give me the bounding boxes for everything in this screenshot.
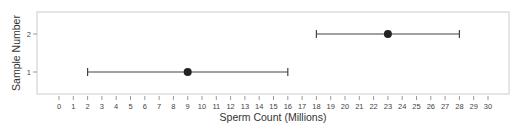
y-tick-label: 2: [27, 30, 31, 39]
y-tick-label: 1: [27, 68, 31, 77]
x-tick-label: 10: [198, 102, 206, 111]
x-tick-label: 21: [355, 102, 363, 111]
x-tick-label: 16: [284, 102, 292, 111]
x-tick-label: 23: [384, 102, 392, 111]
x-tick-label: 13: [241, 102, 249, 111]
mean-marker: [184, 68, 192, 76]
x-tick-label: 22: [369, 102, 377, 111]
x-tick-label: 14: [255, 102, 263, 111]
x-tick-label: 17: [298, 102, 306, 111]
x-tick-label: 30: [484, 102, 492, 111]
plot-frame: [37, 12, 509, 94]
x-tick-label: 28: [455, 102, 463, 111]
x-tick-label: 3: [100, 102, 104, 111]
x-tick-label: 8: [171, 102, 175, 111]
x-tick-label: 5: [128, 102, 132, 111]
x-tick-label: 1: [71, 102, 75, 111]
y-axis-label: Sample Number: [10, 15, 22, 91]
x-tick-label: 2: [86, 102, 90, 111]
x-tick-label: 29: [470, 102, 478, 111]
x-tick-label: 19: [327, 102, 335, 111]
x-tick-label: 25: [412, 102, 420, 111]
x-axis: 0123456789101112131415161718192021222324…: [57, 96, 492, 111]
x-tick-label: 24: [398, 102, 406, 111]
x-tick-label: 7: [157, 102, 161, 111]
x-tick-label: 27: [441, 102, 449, 111]
x-tick-label: 15: [269, 102, 277, 111]
x-tick-label: 9: [186, 102, 190, 111]
x-tick-label: 6: [143, 102, 147, 111]
y-axis: 12: [27, 30, 37, 77]
x-tick-label: 26: [427, 102, 435, 111]
x-tick-label: 4: [114, 102, 118, 111]
x-tick-label: 18: [312, 102, 320, 111]
x-axis-label: Sperm Count (Millions): [220, 111, 327, 123]
x-tick-label: 12: [226, 102, 234, 111]
x-tick-label: 11: [212, 102, 220, 111]
mean-marker: [384, 30, 392, 38]
x-tick-label: 20: [341, 102, 349, 111]
x-tick-label: 0: [57, 102, 61, 111]
error-bar-chart: 0123456789101112131415161718192021222324…: [0, 0, 520, 129]
